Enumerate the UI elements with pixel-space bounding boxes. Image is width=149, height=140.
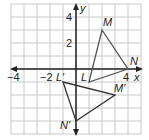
- vertex-label-M: M: [103, 16, 113, 28]
- vertex-label-L: L: [81, 71, 87, 83]
- vertex-label-N-prime: N′: [60, 119, 71, 131]
- vertex-label-L-prime: L′: [56, 71, 65, 83]
- vertex-label-N: N: [130, 55, 138, 67]
- y-tick-2: 2: [66, 37, 72, 49]
- coordinate-plane: −4 −2 4 x 4 2 y M N L L′ M′ N′: [0, 0, 149, 140]
- x-tick-neg4: −4: [7, 71, 20, 83]
- vertex-label-M-prime: M′: [114, 82, 126, 94]
- y-tick-4: 4: [66, 11, 72, 23]
- x-tick-neg2: −2: [40, 71, 53, 83]
- y-axis-arrow-down-icon: [73, 129, 79, 136]
- x-axis-label: x: [133, 71, 140, 83]
